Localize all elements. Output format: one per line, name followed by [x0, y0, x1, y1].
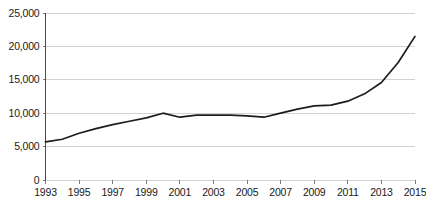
y-axis-tick-label: 0 — [34, 174, 40, 186]
x-axis-tick-label: 2013 — [370, 186, 393, 198]
x-axis-tick-label: 1997 — [101, 186, 124, 198]
x-axis-ticks — [46, 180, 416, 184]
y-axis-tick-label: 25,000 — [9, 7, 40, 19]
y-axis-tick-label: 5,000 — [14, 140, 40, 152]
x-axis-tick-label: 1993 — [34, 186, 57, 198]
x-axis-tick-label: 2007 — [269, 186, 292, 198]
y-axis-tick-label: 10,000 — [9, 107, 40, 119]
x-axis-tick-label: 1999 — [135, 186, 158, 198]
data-series-line — [46, 36, 416, 142]
x-axis-tick-label: 2009 — [303, 186, 326, 198]
x-axis-tick-label: 2001 — [169, 186, 192, 198]
y-axis-tick-label: 15,000 — [9, 73, 40, 85]
x-axis-tick-label: 2005 — [236, 186, 259, 198]
x-axis-tick-label: 1995 — [68, 186, 91, 198]
x-axis-tick-label: 2011 — [337, 186, 359, 198]
line-chart: 05,00010,00015,00020,00025,000 199319951… — [0, 0, 426, 209]
y-axis-tick-label: 20,000 — [9, 40, 40, 52]
chart-canvas: 05,00010,00015,00020,00025,000 199319951… — [0, 0, 426, 209]
y-axis-labels: 05,00010,00015,00020,00025,000 — [9, 7, 46, 186]
x-axis-tick-label: 2003 — [202, 186, 225, 198]
x-axis-labels: 1993199519971999200120032005200720092011… — [34, 186, 426, 198]
x-axis-tick-label: 2015 — [404, 186, 426, 198]
